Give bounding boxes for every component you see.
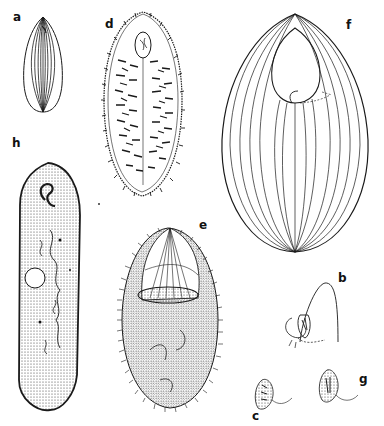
plate-drawing [0,0,384,426]
figure-label-h: h [12,137,21,149]
illustration-plate: a d f h e b g c [0,0,384,426]
figure-label-e: e [199,219,207,231]
figure-h [19,163,80,410]
figure-label-f: f [346,19,351,31]
figure-label-a: a [13,11,21,23]
figure-c [255,379,292,409]
figure-label-d: d [105,18,114,30]
figure-label-g: g [359,373,368,385]
figure-a [24,17,63,112]
figure-label-b: b [338,272,347,284]
figure-b [286,283,338,348]
figure-label-c: c [252,410,259,422]
figure-d [98,12,185,205]
figure-f [222,14,368,252]
figure-g [319,370,358,402]
figure-e [117,228,223,412]
